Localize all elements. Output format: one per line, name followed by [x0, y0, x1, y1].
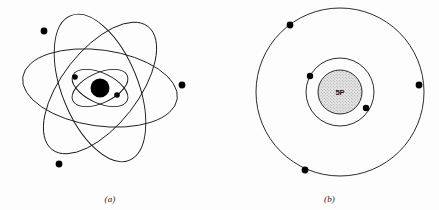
panel-a-planetary-model: (a) — [0, 0, 220, 210]
figure-root: (a) 5P — [0, 0, 439, 210]
electron-inner-upper-left — [307, 73, 313, 79]
electron-outer-bottom-left — [302, 167, 309, 174]
panel-b-diagram: 5P — [220, 0, 439, 190]
electron-outer-upper-left — [41, 28, 48, 35]
electron-outer-right — [416, 82, 423, 89]
panel-b-bohr-model: 5P (b) — [220, 0, 439, 210]
electron-inner-lower-right — [363, 105, 369, 111]
electron-outer-lower-left — [56, 161, 63, 168]
caption-panel-b: (b) — [220, 194, 439, 204]
nucleus-a — [91, 79, 110, 98]
electron-inner-right — [114, 92, 120, 98]
electron-inner-left — [72, 74, 78, 80]
panel-a-diagram — [0, 0, 220, 190]
electron-outer-upper-left — [287, 22, 294, 29]
caption-panel-a: (a) — [0, 194, 220, 204]
electron-outer-right — [179, 82, 186, 89]
nucleus-label: 5P — [335, 88, 344, 97]
